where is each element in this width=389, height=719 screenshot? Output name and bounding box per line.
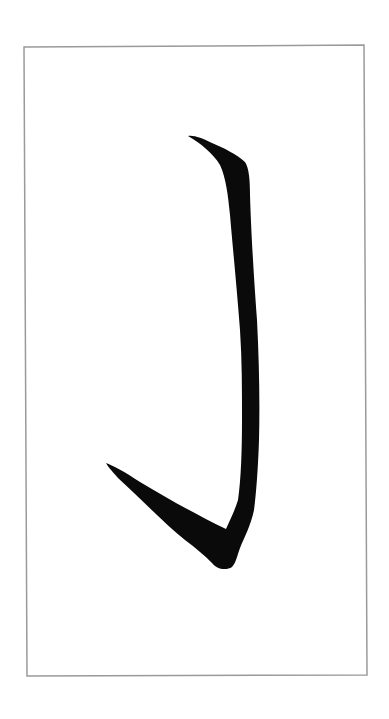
image-canvas: Calligraphy brush stroke (vertical hook … (0, 0, 389, 719)
background (0, 0, 389, 719)
artwork-svg (0, 0, 389, 719)
